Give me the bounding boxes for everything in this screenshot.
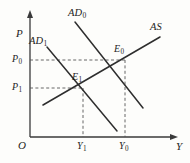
y-tick-label-p1: P1 bbox=[12, 82, 22, 92]
equilibrium-label-e0: E0 bbox=[114, 44, 124, 54]
curve-label-as: AS bbox=[150, 22, 162, 33]
origin-label: O bbox=[18, 140, 26, 151]
vertical-axis-arrow-icon bbox=[27, 10, 33, 18]
curve-label-ad0: AD0 bbox=[68, 8, 86, 19]
curve-as bbox=[43, 37, 160, 105]
equilibrium-label-e1: E1 bbox=[72, 72, 82, 82]
ad-as-diagram: P Y O AD0 AD1 AS E0 E1 P0 P1 Y1 Y0 bbox=[0, 0, 190, 163]
curve-ad0 bbox=[75, 22, 143, 108]
x-tick-label-y0: Y0 bbox=[119, 141, 129, 151]
horizontal-axis-label: Y bbox=[176, 141, 182, 152]
vertical-axis-label: P bbox=[16, 28, 23, 39]
curve-label-ad1: AD1 bbox=[29, 36, 47, 47]
x-tick-label-y1: Y1 bbox=[77, 141, 87, 151]
y-tick-label-p0: P0 bbox=[12, 54, 22, 64]
